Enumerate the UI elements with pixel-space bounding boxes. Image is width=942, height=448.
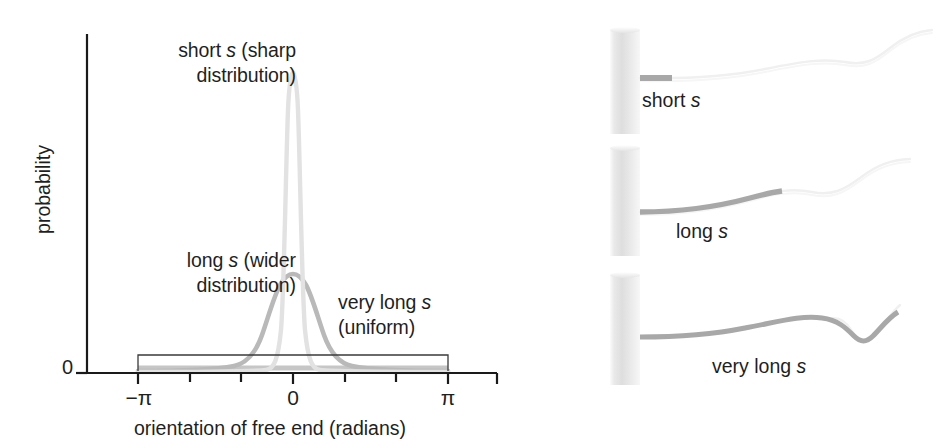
annotation-short-s: short s (sharpdistribution) <box>104 38 296 88</box>
y-axis-label: probability <box>32 115 55 265</box>
annotation-long-s-symbol: s <box>229 249 239 271</box>
annotation-short-s-line1b: (sharp <box>236 39 296 61</box>
illustration-label-very-long-symbol: s <box>797 355 807 377</box>
illustration-svg <box>560 0 942 448</box>
panel-long-s <box>610 145 910 256</box>
x-axis-ticks <box>138 373 497 384</box>
anchoring-wall-short <box>610 30 640 134</box>
annotation-long-s-line1: long <box>187 249 229 271</box>
x-tick-label-neg-pi: −π <box>122 386 156 410</box>
wall-top-cap-long <box>610 145 640 151</box>
illustration-label-short-symbol: s <box>691 89 701 111</box>
filament-solid-very-long <box>640 312 898 341</box>
annotation-long-s-line2: distribution) <box>197 274 297 296</box>
x-tick-label-pi: π <box>432 386 464 410</box>
illustration-label-long-s: long s <box>676 220 728 243</box>
annotation-short-s-line1: short <box>178 39 226 61</box>
filament-illustration-panel: short s long s very long s <box>560 0 942 448</box>
filament-solid-long <box>640 191 782 212</box>
filament-faint-short-inner <box>640 33 932 81</box>
wall-top-cap-very-long <box>610 272 640 278</box>
x-axis-label: orientation of free end (radians) <box>60 417 480 440</box>
annotation-long-s-line1b: (wider <box>238 249 296 271</box>
panel-short-s <box>610 27 932 134</box>
x-tick-label-zero: 0 <box>277 386 309 410</box>
annotation-very-long-s: very long s(uniform) <box>338 290 508 340</box>
illustration-label-short-s: short s <box>642 89 701 112</box>
illustration-label-short-prefix: short <box>642 89 691 111</box>
y-tick-label-0: 0 <box>62 356 73 379</box>
annotation-very-long-s-symbol: s <box>422 291 432 313</box>
illustration-label-long-symbol: s <box>718 220 728 242</box>
filament-faint-long <box>640 159 910 212</box>
filament-faint-short <box>640 30 932 78</box>
illustration-label-long-prefix: long <box>676 220 718 242</box>
annotation-very-long-s-line1: very long <box>338 291 422 313</box>
annotation-short-s-symbol: s <box>226 39 236 61</box>
anchoring-wall-very-long <box>610 275 640 385</box>
anchoring-wall-long <box>610 148 640 256</box>
illustration-label-very-long-s: very long s <box>712 355 806 378</box>
figure-root: short s (sharpdistribution) long s (wide… <box>0 0 942 448</box>
illustration-label-very-long-prefix: very long <box>712 355 797 377</box>
probability-distribution-plot: short s (sharpdistribution) long s (wide… <box>0 0 560 448</box>
annotation-long-s: long s (widerdistribution) <box>92 248 296 298</box>
wall-top-cap-short <box>610 27 640 33</box>
annotation-short-s-line2: distribution) <box>197 64 297 86</box>
annotation-very-long-s-line2: (uniform) <box>338 316 415 338</box>
